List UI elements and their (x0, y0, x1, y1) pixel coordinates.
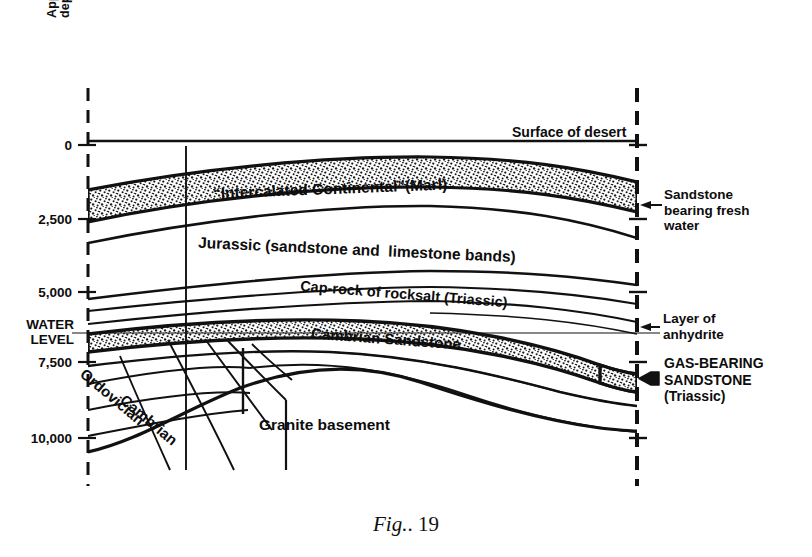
figure-caption-number-wrap: . (407, 512, 418, 536)
axis-title: Approximate depth in feet (46, 18, 64, 57)
bed-contact-1 (88, 367, 250, 384)
figure-container: Approximate depth in feet 0 2,500 5,000 … (0, 0, 812, 557)
dip-line-2 (168, 340, 234, 470)
figure-caption-number: 19 (418, 512, 439, 536)
water-level-label: WATER LEVEL (8, 318, 74, 347)
axis-title-text: Approximate depth in feet (46, 0, 72, 18)
figure-caption-prefix: Fig. (373, 512, 407, 536)
dip-line-5 (252, 344, 292, 380)
axis-tick-0: 0 (10, 138, 72, 153)
gas-bearing-arrow-icon (639, 372, 659, 385)
gas-bearing-sandstone-zone (600, 365, 637, 392)
axis-tick-2500: 2,500 (10, 212, 72, 227)
annotation-sandstone-fresh-water: Sandstone bearing fresh water (664, 187, 750, 234)
annotation-layer-of-anhydrite: Layer of anhydrite (663, 311, 724, 342)
stratum-label-granite-basement: Granite basement (259, 416, 390, 434)
geological-cross-section (0, 0, 812, 557)
marl-base-line (88, 206, 637, 243)
axis-tick-10000: 10,000 (10, 431, 72, 446)
figure-caption: Fig.. 19 (0, 512, 812, 537)
axis-tick-7500: 7,500 (10, 355, 72, 370)
axis-tick-5000: 5,000 (10, 285, 72, 300)
annotation-gas-bearing-sandstone: GAS-BEARING SANDSTONE (Triassic) (664, 355, 764, 405)
surface-of-desert-label: Surface of desert (512, 124, 626, 140)
